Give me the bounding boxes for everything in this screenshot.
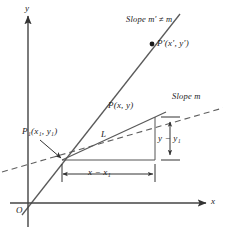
y-axis-label: y: [25, 4, 29, 13]
slope-diagram-figure: y x O Slope m′ ≠ m P′(x′, y′) Slope m P(…: [0, 0, 225, 237]
run-label: x − x₁: [88, 168, 111, 177]
x-axis-label: x: [211, 197, 215, 206]
rise-label: y − y₁: [158, 134, 181, 143]
point-p-prime-label: P′(x′, y′): [157, 39, 189, 48]
slope-m-label: Slope m: [172, 92, 201, 101]
origin-label: O: [16, 206, 23, 215]
segment-l-label: L: [101, 130, 106, 139]
slope-m-prime-label: Slope m′ ≠ m: [126, 15, 172, 24]
point-p-label: P(x, y): [108, 101, 133, 110]
point-p-prime-marker: [150, 42, 155, 47]
dashed-slope-m-line: [2, 108, 223, 172]
point-p1-label: P₁(x₁, y₁): [22, 127, 57, 136]
line-segment-L: [62, 112, 166, 160]
p1-leader-line: [40, 140, 61, 158]
diagram-canvas: [0, 0, 225, 237]
